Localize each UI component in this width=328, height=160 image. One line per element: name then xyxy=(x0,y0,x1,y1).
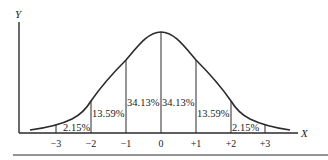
tick-label-minus-2: −2 xyxy=(86,138,97,149)
tick-label-minus-3: −3 xyxy=(51,138,62,149)
tick-label-plus-1: +1 xyxy=(191,138,202,149)
x-axis-label: X xyxy=(300,127,309,139)
tick-label-minus-1: −1 xyxy=(121,138,132,149)
pct-label-region-plus-2: 13.59% xyxy=(197,108,230,119)
pct-label-region-plus-1: 34.13% xyxy=(162,97,195,108)
tick-label-plus-3: +3 xyxy=(260,138,271,149)
tick-label-plus-2: +2 xyxy=(226,138,237,149)
pct-label-region-plus-3: 2.15% xyxy=(232,122,259,133)
pct-label-region-minus-3: 2.15% xyxy=(63,122,90,133)
pct-label-region-minus-2: 13.59% xyxy=(92,108,125,119)
tick-label-zero: 0 xyxy=(159,138,164,149)
bell-curve xyxy=(30,32,290,130)
normal-distribution-diagram: Y X 2.15% 13.59% 34.13% 34.13% 13.59% 2.… xyxy=(0,0,328,160)
pct-label-region-minus-1: 34.13% xyxy=(127,97,160,108)
y-axis-label: Y xyxy=(15,8,23,20)
